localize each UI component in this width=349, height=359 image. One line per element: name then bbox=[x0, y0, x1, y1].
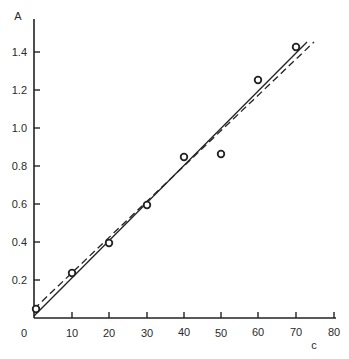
y-axis-title: A bbox=[14, 10, 22, 22]
x-tick-label: 80 bbox=[328, 326, 340, 338]
data-point bbox=[218, 151, 225, 158]
y-tick-label: 0.4 bbox=[12, 236, 27, 248]
x-tick-label: 40 bbox=[178, 326, 190, 338]
data-point bbox=[69, 270, 76, 277]
y-ticks bbox=[34, 52, 40, 280]
x-tick-label: 10 bbox=[66, 327, 78, 339]
y-tick-label: 1.2 bbox=[12, 84, 27, 96]
x-tick-label-origin: 0 bbox=[21, 327, 27, 339]
x-tick-label: 30 bbox=[141, 327, 153, 339]
dashed-fit-line bbox=[34, 42, 314, 309]
data-point bbox=[293, 44, 300, 51]
x-ticks bbox=[72, 312, 334, 318]
x-tick-label: 70 bbox=[290, 326, 302, 338]
data-point bbox=[106, 240, 113, 247]
x-tick-label: 60 bbox=[252, 326, 264, 338]
data-point bbox=[181, 154, 188, 161]
data-point bbox=[255, 77, 262, 84]
y-tick-label: 0.8 bbox=[12, 160, 27, 172]
x-axis-title: c bbox=[311, 339, 317, 351]
data-point bbox=[33, 306, 40, 313]
y-tick-label: 1.0 bbox=[12, 122, 27, 134]
x-tick-label: 20 bbox=[103, 327, 115, 339]
data-points bbox=[33, 44, 300, 313]
y-tick-label: 1.4 bbox=[12, 46, 27, 58]
y-tick-label: 0.2 bbox=[12, 274, 27, 286]
data-point bbox=[144, 202, 151, 209]
chart-canvas: 0.2 0.4 0.6 0.8 1.0 1.2 1.4 0 10 20 30 4… bbox=[0, 0, 349, 359]
x-tick-label: 50 bbox=[215, 327, 227, 339]
y-tick-label: 0.6 bbox=[12, 198, 27, 210]
